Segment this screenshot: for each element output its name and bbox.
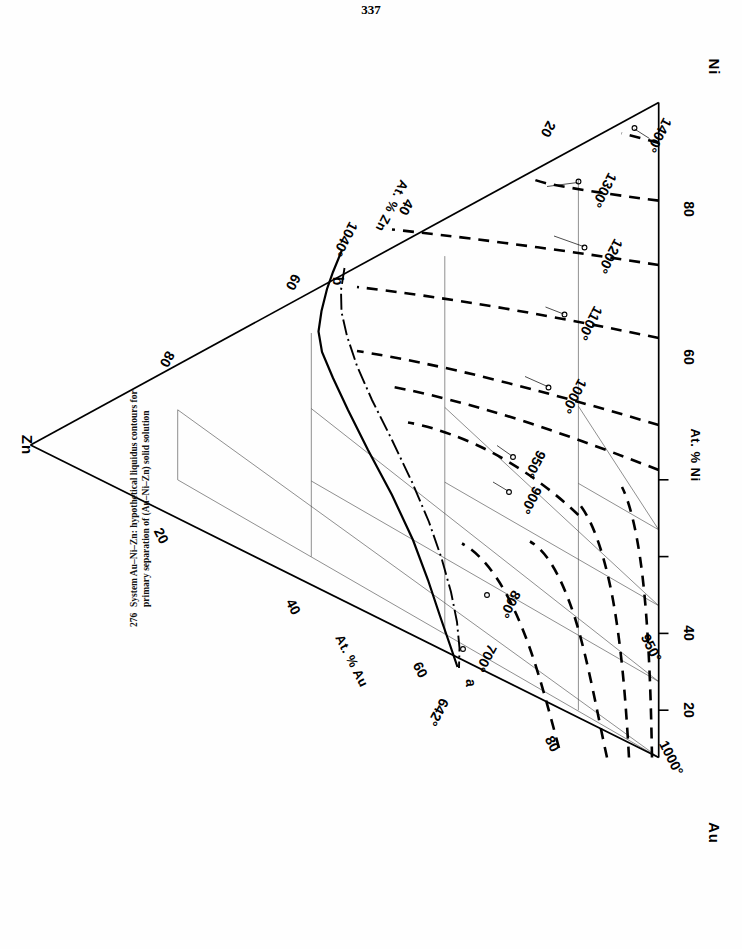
contour-950 [393, 387, 659, 470]
point-temp-642: 642° [425, 696, 453, 729]
contour-label-700: 700° [473, 642, 501, 675]
tick-label-ni-20: 20 [681, 702, 697, 718]
boundary-a-b [319, 250, 458, 667]
corner-label-au: Au [706, 822, 723, 844]
axis-titles: At. % Ni At. % Zn At. % Au [332, 178, 703, 690]
contour-900 [408, 423, 578, 516]
corner-label-zn: Zn [19, 435, 36, 455]
contour-label-1000-au: 1000° [656, 738, 687, 778]
tick-label-ni-80: 80 [681, 201, 697, 217]
contour-leaders [493, 129, 650, 491]
ticks-zn-au: 20 40 60 80 [151, 525, 563, 754]
contour-label-1400: 1400° [644, 115, 675, 155]
tick-label-au-40: 40 [283, 596, 304, 617]
contour-1100 [357, 287, 659, 338]
ticks-ni-zn: 20 40 60 80 [157, 119, 560, 370]
caption-text-2: primary separation of (Au–Ni–Zn) solid s… [141, 410, 151, 607]
phase-boundaries [319, 250, 460, 668]
axis-ticks [659, 480, 669, 710]
ternary-phase-diagram: Ni Au Zn At. % Ni At. % Zn At. % Au 20 4… [0, 0, 742, 949]
contour-label-800: 800° [497, 588, 525, 621]
contour-800 [462, 544, 559, 749]
contour-label-markers [461, 126, 637, 652]
point-temp-1040: 1040° [330, 219, 361, 259]
caption-line-1: 276System Au–Ni–Zn: hypothetical liquidu… [128, 327, 140, 627]
axis-title-ni: At. % Ni [688, 428, 703, 481]
point-label-a: a [463, 679, 479, 687]
liquidus-contours [357, 133, 659, 757]
axis-title-au: At. % Au [332, 632, 371, 690]
tick-label-au-80: 80 [542, 733, 563, 754]
figure-caption: 276System Au–Ni–Zn: hypothetical liquidu… [128, 327, 174, 627]
contour-label-950-au: 950° [638, 631, 665, 664]
caption-text-1: System Au–Ni–Zn: hypothetical liquidus c… [129, 390, 139, 607]
tick-label-ni-60: 60 [681, 349, 697, 365]
tick-label-zn-20: 20 [538, 119, 560, 140]
caption-line-2: primary separation of (Au–Ni–Zn) solid s… [140, 327, 152, 627]
corner-label-ni: Ni [706, 59, 723, 76]
point-label-b: b [330, 277, 346, 286]
tick-label-au-60: 60 [410, 659, 431, 680]
tick-label-ni-40: 40 [681, 625, 697, 641]
figure-number: 276 [128, 607, 140, 627]
contour-label-900: 900° [518, 484, 546, 517]
page-canvas: 337 [0, 0, 742, 949]
contour-label-950: 950° [522, 448, 550, 481]
contour-950-au [578, 503, 629, 758]
tick-label-zn-60: 60 [283, 272, 305, 293]
